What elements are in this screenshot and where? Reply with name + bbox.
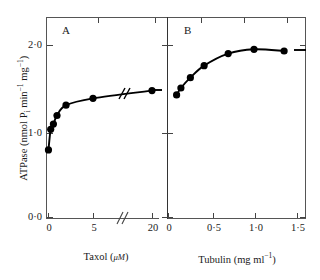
panel-a-data-series bbox=[45, 87, 162, 224]
data-point bbox=[50, 121, 57, 128]
data-point bbox=[187, 74, 194, 81]
panel-a-axis-break-mark bbox=[117, 212, 128, 224]
figure-container: A B 2·0 1·0 0·0 0 5 20 0 0·5 1·0 1·5 ATP… bbox=[0, 0, 320, 280]
data-point bbox=[201, 62, 208, 69]
data-point bbox=[89, 95, 96, 102]
data-point bbox=[225, 50, 232, 57]
data-point bbox=[45, 146, 52, 153]
data-point bbox=[177, 84, 184, 91]
data-point bbox=[148, 87, 155, 94]
data-point bbox=[173, 91, 180, 98]
data-point bbox=[250, 46, 257, 53]
panel-b-data-series bbox=[173, 46, 306, 99]
panel-a-curve bbox=[48, 91, 152, 150]
data-layer bbox=[0, 0, 320, 280]
panel-b-markers bbox=[173, 46, 288, 99]
data-point bbox=[62, 102, 69, 109]
data-point bbox=[53, 112, 60, 119]
data-point bbox=[281, 47, 288, 54]
